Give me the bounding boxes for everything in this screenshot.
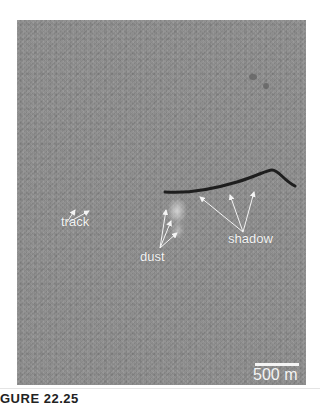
dark-spot bbox=[263, 83, 269, 89]
track-label: track bbox=[61, 215, 89, 228]
dust-plume bbox=[167, 197, 187, 225]
dust-arrow bbox=[160, 210, 166, 248]
dust-label: dust bbox=[140, 250, 165, 263]
figure-caption: GURE 22.25 bbox=[0, 392, 79, 405]
satellite-image-panel: track dust shadow 500 m bbox=[17, 20, 306, 385]
shadow-arrow bbox=[243, 192, 254, 232]
dust-devil-shadow bbox=[165, 170, 295, 192]
scale-bar-label: 500 m bbox=[253, 367, 297, 383]
annotation-overlay bbox=[17, 20, 306, 385]
dark-spot bbox=[249, 74, 257, 80]
caption-divider bbox=[0, 388, 320, 389]
shadow-label: shadow bbox=[228, 232, 273, 245]
